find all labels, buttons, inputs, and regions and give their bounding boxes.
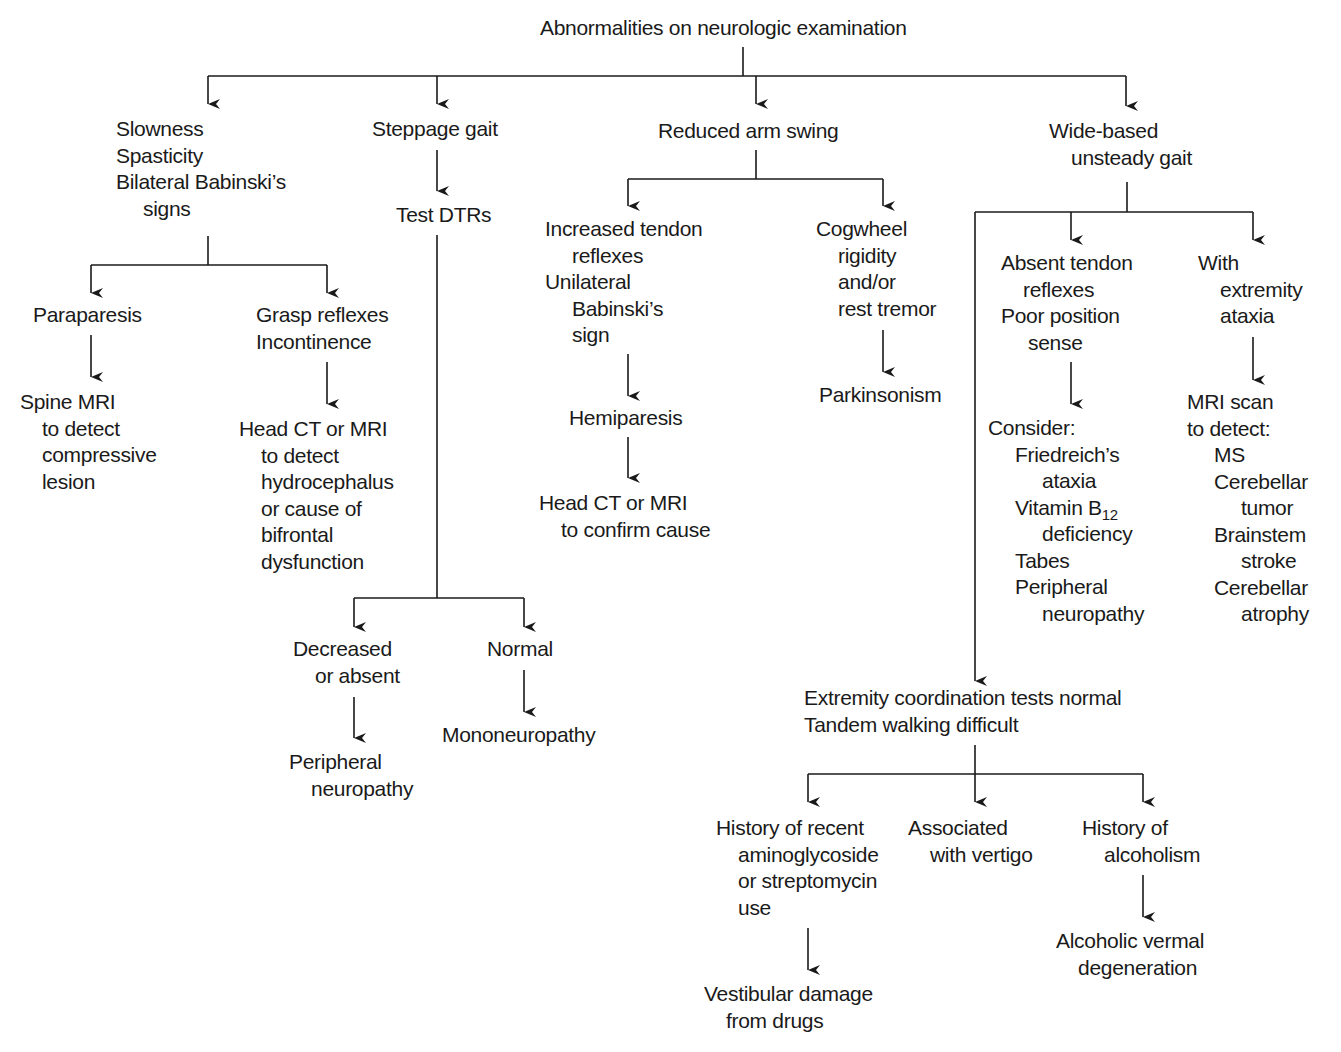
node-text: Head CT or MRI	[539, 490, 710, 517]
node-text: or streptomycin	[716, 868, 879, 895]
node-aminoglycoside-history: History of recent aminoglycoside or stre…	[716, 815, 879, 921]
node-text: Cerebellar	[1187, 469, 1309, 496]
node-text: compressive	[20, 442, 157, 469]
node-text: Tandem walking difficult	[804, 712, 1121, 739]
node-text: Vitamin B	[1015, 496, 1102, 519]
node-text: to detect	[20, 416, 157, 443]
node-text: Extremity coordination tests normal	[804, 685, 1121, 712]
node-text: Consider:	[988, 415, 1144, 442]
node-text: Vestibular damage	[704, 981, 873, 1008]
node-head-ct-hydrocephalus: Head CT or MRI to detect hydrocephalus o…	[239, 416, 394, 575]
node-text: reflexes	[1001, 277, 1133, 304]
node-text: Poor position	[1001, 303, 1133, 330]
node-text: use	[716, 895, 879, 922]
node-text: neuropathy	[988, 601, 1144, 628]
node-text: extremity	[1198, 277, 1302, 304]
node-text: Incontinence	[256, 329, 388, 356]
node-text: atrophy	[1187, 601, 1309, 628]
node-text: rigidity	[816, 243, 936, 270]
node-text: Cogwheel	[816, 216, 936, 243]
node-wide-based-gait: Wide-based unsteady gait	[1049, 118, 1192, 171]
node-text: reflexes	[545, 243, 703, 270]
node-text: lesion	[20, 469, 157, 496]
node-text: degeneration	[1056, 955, 1204, 982]
node-steppage-gait: Steppage gait	[372, 116, 498, 143]
node-absent-tendon-reflexes: Absent tendon reflexes Poor position sen…	[1001, 250, 1133, 356]
node-vestibular-damage: Vestibular damage from drugs	[704, 981, 873, 1034]
node-text: Steppage gait	[372, 116, 498, 143]
subscript: 12	[1102, 506, 1118, 523]
node-reduced-arm-swing: Reduced arm swing	[658, 118, 839, 145]
node-peripheral-neuropathy: Peripheral neuropathy	[289, 749, 413, 802]
node-alcoholism-history: History of alcoholism	[1082, 815, 1200, 868]
node-cogwheel-rigidity: Cogwheel rigidity and/or rest tremor	[816, 216, 936, 322]
node-normal: Normal	[487, 636, 553, 663]
node-text: Slowness	[116, 116, 286, 143]
node-text: Absent tendon	[1001, 250, 1133, 277]
node-consider: Consider: Friedreich’s ataxia Vitamin B1…	[988, 415, 1144, 627]
node-text: Bilateral Babinski’s	[116, 169, 286, 196]
node-alcoholic-vermal-degeneration: Alcoholic vermal degeneration	[1056, 928, 1204, 981]
node-text: to detect:	[1187, 416, 1309, 443]
node-text: tumor	[1187, 495, 1309, 522]
node-text: neuropathy	[289, 776, 413, 803]
node-test-dtrs: Test DTRs	[396, 202, 491, 229]
node-text: Test DTRs	[396, 202, 491, 229]
node-text: Parkinsonism	[819, 382, 941, 409]
node-text: Unilateral	[545, 269, 703, 296]
node-text: With	[1198, 250, 1302, 277]
node-text: Reduced arm swing	[658, 118, 839, 145]
node-text: from drugs	[704, 1008, 873, 1035]
node-extremity-ataxia: With extremity ataxia	[1198, 250, 1302, 330]
node-text: Grasp reflexes	[256, 302, 388, 329]
node-paraparesis: Paraparesis	[33, 302, 142, 329]
node-text: Paraparesis	[33, 302, 142, 329]
node-text: to confirm cause	[539, 517, 710, 544]
node-text: deficiency	[988, 521, 1144, 548]
node-text: rest tremor	[816, 296, 936, 323]
node-slowness: Slowness Spasticity Bilateral Babinski’s…	[116, 116, 286, 222]
node-text: Brainstem	[1187, 522, 1309, 549]
node-head-ct-confirm: Head CT or MRI to confirm cause	[539, 490, 710, 543]
node-mononeuropathy: Mononeuropathy	[442, 722, 595, 749]
node-text: Tabes	[988, 548, 1144, 575]
node-spine-mri: Spine MRI to detect compressive lesion	[20, 389, 157, 495]
node-grasp-reflexes: Grasp reflexes Incontinence	[256, 302, 388, 355]
node-text: Associated	[908, 815, 1033, 842]
node-text: unsteady gait	[1049, 145, 1192, 172]
node-text: with vertigo	[908, 842, 1033, 869]
node-text: Friedreich’s	[988, 442, 1144, 469]
node-text: or absent	[293, 663, 400, 690]
node-text: Mononeuropathy	[442, 722, 595, 749]
node-text: Increased tendon	[545, 216, 703, 243]
node-text-vitamin: Vitamin B12	[988, 495, 1144, 522]
node-root: Abnormalities on neurologic examination	[540, 15, 907, 42]
node-text: Head CT or MRI	[239, 416, 394, 443]
node-text: ataxia	[988, 468, 1144, 495]
node-text: Peripheral	[988, 574, 1144, 601]
node-text: signs	[116, 196, 286, 223]
node-text: Babinski’s	[545, 296, 703, 323]
node-text: Abnormalities on neurologic examination	[540, 15, 907, 42]
node-text: Alcoholic vermal	[1056, 928, 1204, 955]
node-text: Decreased	[293, 636, 400, 663]
node-text: MS	[1187, 442, 1309, 469]
node-associated-vertigo: Associated with vertigo	[908, 815, 1033, 868]
node-text: Wide-based	[1049, 118, 1192, 145]
node-text: and/or	[816, 269, 936, 296]
node-text: MRI scan	[1187, 389, 1309, 416]
node-text: Normal	[487, 636, 553, 663]
node-text: sign	[545, 322, 703, 349]
node-mri-scan: MRI scan to detect: MS Cerebellar tumor …	[1187, 389, 1309, 628]
node-text: History of recent	[716, 815, 879, 842]
node-text: alcoholism	[1082, 842, 1200, 869]
node-decreased-absent: Decreased or absent	[293, 636, 400, 689]
node-text: bifrontal	[239, 522, 394, 549]
node-text: hydrocephalus	[239, 469, 394, 496]
node-text: stroke	[1187, 548, 1309, 575]
node-text: Cerebellar	[1187, 575, 1309, 602]
node-text: ataxia	[1198, 303, 1302, 330]
node-text: aminoglycoside	[716, 842, 879, 869]
node-text: Peripheral	[289, 749, 413, 776]
node-parkinsonism: Parkinsonism	[819, 382, 941, 409]
